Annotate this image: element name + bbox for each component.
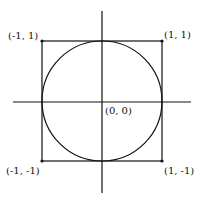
point-bottom-right <box>160 159 163 162</box>
label-top-left: (-1, 1) <box>8 30 38 41</box>
label-top-right: (1, 1) <box>164 29 191 40</box>
diagram-canvas: (-1, 1) (1, 1) (-1, -1) (1, -1) (0, 0) <box>0 0 200 198</box>
point-bottom-left <box>40 159 43 162</box>
point-top-left <box>40 39 43 42</box>
label-bottom-right: (1, -1) <box>164 165 194 176</box>
label-origin: (0, 0) <box>105 105 132 116</box>
label-bottom-left: (-1, -1) <box>6 165 40 176</box>
